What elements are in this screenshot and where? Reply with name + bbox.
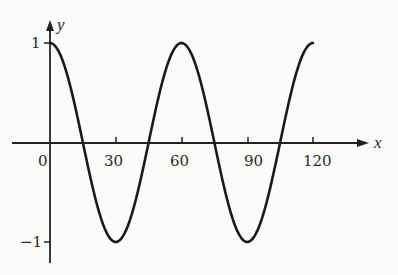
x-tick-label-120: 120 <box>303 152 332 170</box>
y-tick-label-1: 1 <box>31 34 41 52</box>
x-tick-label-60: 60 <box>170 152 189 170</box>
x-tick-label-30: 30 <box>104 152 123 170</box>
x-axis-arrow-icon <box>357 139 369 147</box>
y-axis-arrow-icon <box>46 20 54 31</box>
x-axis-label: x <box>373 133 382 152</box>
y-tick-label-neg1: −1 <box>20 233 42 251</box>
y-axis-label: y <box>55 15 65 34</box>
cosine-chart: y x 1 −1 0 30 60 90 120 <box>0 0 398 275</box>
origin-label: 0 <box>38 152 48 170</box>
x-tick-label-90: 90 <box>244 152 263 170</box>
